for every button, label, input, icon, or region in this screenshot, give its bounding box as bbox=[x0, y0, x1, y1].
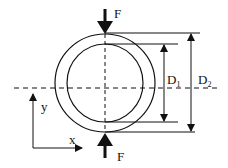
top-force-arrow bbox=[97, 9, 113, 34]
bottom-force-label: F bbox=[117, 149, 124, 164]
d2-label: D2 bbox=[198, 72, 211, 89]
d1-label: D1 bbox=[167, 72, 180, 89]
y-axis-label: y bbox=[41, 99, 48, 114]
ring-diagram: F F D1 D2 y x bbox=[0, 0, 228, 168]
top-force-label: F bbox=[114, 6, 121, 21]
bottom-force-arrow bbox=[97, 133, 113, 158]
x-axis-label: x bbox=[69, 132, 76, 147]
